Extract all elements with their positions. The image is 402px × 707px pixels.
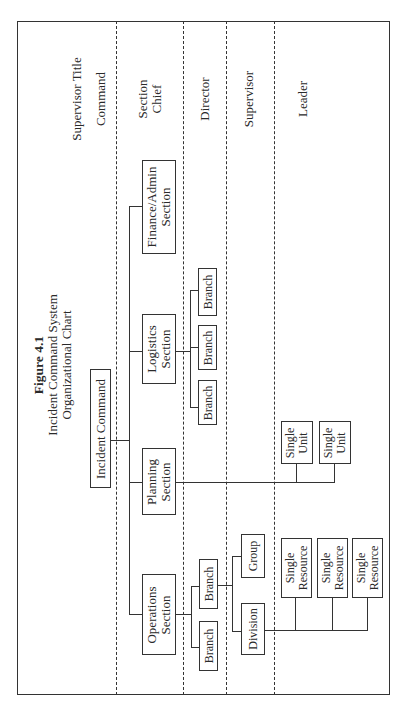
- supervisor-title-header: Supervisor Title: [70, 57, 84, 140]
- node-branch-label: Branch: [202, 629, 215, 664]
- connector-divgroup-bus: [232, 556, 233, 631]
- node-logistics-branch: Branch: [198, 380, 217, 425]
- node-division: Division: [241, 603, 265, 655]
- level-label-section-chief-line1: Section: [136, 80, 150, 119]
- node-incident-command: Incident Command: [90, 369, 111, 488]
- connector-logistics: [129, 351, 143, 352]
- node-single-unit-line2: Unit: [297, 427, 310, 458]
- level-divider-command: [116, 21, 117, 695]
- node-branch-label: Branch: [201, 385, 214, 420]
- node-single-unit-line1: Single: [322, 427, 335, 458]
- connector-operations-branch-bus: [191, 586, 192, 647]
- node-logistics-branch: Branch: [198, 325, 217, 370]
- connector-resource-2: [332, 597, 333, 630]
- node-logistics-section: Logistics Section: [142, 314, 176, 384]
- node-logistics-line1: Logistics: [145, 325, 159, 373]
- figure-title: Figure 4.1 Incident Command System Organ…: [32, 294, 73, 436]
- node-single-resource-label: Single Resource: [355, 546, 380, 591]
- level-label-section-chief: Section Chief: [136, 80, 163, 119]
- node-logistics-branch: Branch: [198, 268, 217, 316]
- node-operations-label: Operations Section: [145, 586, 172, 643]
- node-single-unit-label: Single Unit: [322, 427, 347, 458]
- node-single-resource-line1: Single: [355, 546, 368, 591]
- node-single-unit-line2: Unit: [335, 427, 348, 458]
- node-single-resource: Single Resource: [317, 538, 348, 598]
- node-operations-line1: Operations: [145, 586, 159, 643]
- node-single-resource-label: Single Resource: [320, 546, 345, 591]
- connector-section-trunk: [129, 206, 130, 615]
- node-operations-branch: Branch: [199, 621, 218, 671]
- node-planning-label: Planning Section: [145, 458, 172, 504]
- node-single-unit: Single Unit: [319, 421, 351, 464]
- node-branch-label: Branch: [202, 567, 215, 602]
- node-finance-line1: Finance/Admin: [145, 167, 159, 248]
- node-logistics-label: Logistics Section: [145, 325, 172, 373]
- level-label-supervisor: Supervisor: [242, 71, 256, 127]
- connector-finance: [129, 206, 143, 207]
- node-single-resource-label: Single Resource: [284, 546, 309, 591]
- node-branch-label: Branch: [201, 330, 214, 365]
- connector-command-trunk: [110, 440, 130, 441]
- node-finance-admin-section: Finance/Admin Section: [142, 160, 176, 254]
- node-single-unit-label: Single Unit: [284, 427, 309, 458]
- node-group: Group: [241, 534, 265, 578]
- node-single-resource-line1: Single: [284, 546, 297, 591]
- node-division-label: Division: [247, 608, 260, 649]
- node-operations-line2: Section: [159, 586, 173, 643]
- connector-division-resources: [263, 630, 368, 631]
- node-planning-line2: Section: [159, 458, 173, 504]
- connector-operations: [129, 614, 143, 615]
- connector-branch-divgroup: [216, 585, 233, 586]
- level-divider-supervisor: [274, 21, 275, 695]
- node-finance-line2: Section: [159, 167, 173, 248]
- node-single-resource-line2: Resource: [297, 546, 310, 591]
- level-label-leader: Leader: [296, 81, 310, 117]
- figure-title-line2: Organizational Chart: [60, 294, 74, 436]
- connector-logistics-branch-bus: [190, 290, 191, 407]
- node-single-resource: Single Resource: [352, 538, 383, 598]
- level-label-director: Director: [198, 77, 212, 120]
- level-label-command: Command: [94, 72, 108, 126]
- node-single-resource-line1: Single: [320, 546, 333, 591]
- connector-resource-3: [367, 597, 368, 630]
- node-single-unit-line1: Single: [284, 427, 297, 458]
- level-divider-section-chief: [183, 21, 184, 695]
- node-group-label: Group: [247, 541, 260, 572]
- connector-unit-1: [296, 463, 297, 482]
- connector-planning: [129, 482, 143, 483]
- node-planning-section: Planning Section: [142, 448, 176, 515]
- node-single-unit: Single Unit: [281, 421, 313, 464]
- figure-title-line1: Incident Command System: [46, 294, 60, 436]
- node-single-resource-line2: Resource: [333, 546, 346, 591]
- node-operations-section: Operations Section: [142, 574, 176, 655]
- connector-logistics-branches: [175, 351, 191, 352]
- figure-number: Figure 4.1: [31, 336, 46, 394]
- connector-operations-branches: [174, 614, 192, 615]
- node-finance-label: Finance/Admin Section: [145, 167, 172, 248]
- node-logistics-line2: Section: [159, 325, 173, 373]
- node-single-resource-line2: Resource: [368, 546, 381, 591]
- node-branch-label: Branch: [201, 275, 214, 310]
- connector-unit-2: [334, 463, 335, 482]
- node-operations-branch: Branch: [199, 559, 218, 609]
- node-planning-line1: Planning: [145, 458, 159, 504]
- level-divider-director: [226, 21, 227, 695]
- node-incident-command-label: Incident Command: [94, 378, 108, 478]
- connector-planning-units: [175, 482, 335, 483]
- connector-resource-1: [295, 597, 296, 630]
- level-label-section-chief-line2: Chief: [150, 80, 164, 119]
- node-single-resource: Single Resource: [281, 538, 312, 598]
